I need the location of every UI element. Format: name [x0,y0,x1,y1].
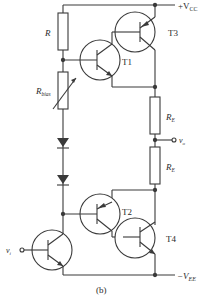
RE-bottom-label: RE [165,162,176,173]
Rbias-label: Rbias [35,86,51,97]
resistor-RE-top [150,97,160,134]
output-terminal [172,138,176,142]
R-label: R [44,28,51,38]
vcc-label: +VCC [178,1,198,12]
diode-1 [57,138,69,148]
RE-top-label: RE [165,112,176,123]
transistor-T3 [112,5,155,52]
resistor-RE-bottom [150,147,160,184]
T2-label: T2 [122,207,132,217]
vcc-rail [63,3,175,6]
T1-label: T1 [122,57,132,67]
input-terminal [20,248,24,252]
circuit-figure: +VCC R Rbias T3 T1 [0,0,205,296]
T4-label: T4 [166,234,176,244]
diode-2 [57,175,69,185]
transistor-T4 [115,218,155,275]
vee-rail [63,273,175,276]
vi-label: vi [6,246,12,256]
vee-label: −VEE [177,271,196,282]
resistor-R [58,13,68,50]
vo-label: vo [179,136,186,146]
figure-caption: (b) [96,285,107,295]
transistor-input [24,225,72,275]
T3-label: T3 [168,28,178,38]
circuit-schematic: +VCC R Rbias T3 T1 [0,0,205,296]
